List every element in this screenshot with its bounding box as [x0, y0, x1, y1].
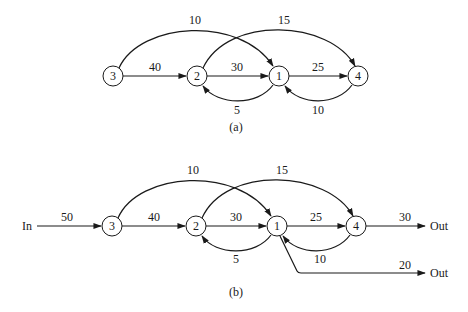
- edge-label: 50: [61, 210, 73, 224]
- node-b-1: 1: [267, 216, 287, 236]
- edge-label: 15: [278, 13, 290, 27]
- edge-label: 25: [310, 210, 322, 224]
- edge-b-4-1: [283, 235, 350, 251]
- edge-label: 5: [233, 252, 239, 266]
- edge-label: 40: [149, 60, 161, 74]
- node-label: 1: [274, 219, 280, 233]
- diagram-b: In 50 40 30 25 10 15 5 10 30 20 Out Out …: [22, 163, 449, 299]
- diagram-a: 40 30 25 10 15 5 10 3 2 1 4 (a): [103, 13, 368, 134]
- edge-label: 40: [148, 210, 160, 224]
- output-label-2: Out: [430, 266, 449, 280]
- input-label: In: [22, 219, 32, 233]
- edge-label: 30: [231, 60, 243, 74]
- node-label: 3: [110, 69, 116, 83]
- edge-label: 10: [314, 252, 326, 266]
- node-label: 4: [355, 69, 361, 83]
- node-b-3: 3: [102, 216, 122, 236]
- node-label: 1: [276, 69, 282, 83]
- node-label: 2: [194, 69, 200, 83]
- flow-diagrams: 40 30 25 10 15 5 10 3 2 1 4 (a) In: [0, 0, 468, 312]
- node-a-4: 4: [348, 66, 368, 86]
- node-b-4: 4: [346, 216, 366, 236]
- edge-b-3-1: [118, 181, 271, 218]
- edge-a-1-2: [203, 85, 273, 101]
- caption-b: (b): [229, 285, 243, 299]
- edge-label: 25: [312, 60, 324, 74]
- node-a-1: 1: [269, 66, 289, 86]
- edge-label: 5: [234, 103, 240, 117]
- edge-a-4-1: [285, 85, 352, 101]
- node-a-3: 3: [103, 66, 123, 86]
- node-label: 4: [353, 219, 359, 233]
- edge-label: 10: [312, 103, 324, 117]
- edge-label: 30: [399, 210, 411, 224]
- node-a-2: 2: [187, 66, 207, 86]
- output-label-1: Out: [430, 219, 449, 233]
- edge-label: 10: [189, 13, 201, 27]
- edge-a-3-1: [119, 31, 273, 68]
- edge-label: 10: [187, 163, 199, 177]
- caption-a: (a): [229, 120, 242, 134]
- edge-b-1-2: [202, 235, 271, 251]
- node-label: 2: [193, 219, 199, 233]
- node-b-2: 2: [186, 216, 206, 236]
- edge-label: 30: [230, 210, 242, 224]
- edge-a-2-4: [203, 30, 355, 68]
- node-label: 3: [109, 219, 115, 233]
- edge-b-2-4: [202, 180, 353, 218]
- edge-label: 20: [399, 258, 411, 272]
- edge-label: 15: [276, 163, 288, 177]
